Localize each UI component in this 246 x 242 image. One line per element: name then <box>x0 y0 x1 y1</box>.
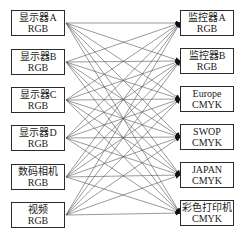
target-name: JAPAN <box>192 164 222 175</box>
source-space: RGB <box>28 138 49 149</box>
source-name: 显示器C <box>20 89 57 100</box>
source-name: 显示器A <box>19 12 56 23</box>
source-box-display-c: 显示器C RGB <box>11 87 65 113</box>
connection-arrow <box>66 213 180 215</box>
source-name: 显示器B <box>20 51 57 62</box>
target-name: 彩色打印机 <box>182 202 232 213</box>
target-name: 监控器B <box>189 50 226 61</box>
target-space: CMYK <box>192 137 222 148</box>
target-box-europe: Europe CMYK <box>180 86 234 112</box>
target-space: RGB <box>197 23 218 34</box>
target-space: CMYK <box>192 213 222 224</box>
source-name: 显示器D <box>19 127 56 138</box>
source-space: RGB <box>28 215 49 226</box>
connection-arrow <box>66 175 180 215</box>
target-box-swop: SWOP CMYK <box>180 124 234 150</box>
source-space: RGB <box>28 177 49 188</box>
target-name: 监控器A <box>188 12 225 23</box>
connection-arrow <box>66 138 180 175</box>
source-space: RGB <box>28 62 49 73</box>
target-box-monitor-b: 监控器B RGB <box>180 48 234 74</box>
source-box-display-d: 显示器D RGB <box>11 125 65 151</box>
source-box-video: 视频 RGB <box>11 202 65 228</box>
target-space: RGB <box>197 61 218 72</box>
target-name: SWOP <box>193 126 221 137</box>
source-box-display-a: 显示器A RGB <box>11 10 65 36</box>
source-name: 视频 <box>28 204 48 215</box>
target-space: CMYK <box>192 99 222 110</box>
source-box-digital-camera: 数码相机 RGB <box>11 164 65 190</box>
connection-arrow <box>66 99 180 215</box>
target-box-color-printer: 彩色打印机 CMYK <box>180 200 234 226</box>
target-name: Europe <box>193 88 222 99</box>
target-space: CMYK <box>192 175 222 186</box>
color-conversion-diagram: 显示器A RGB 显示器B RGB 显示器C RGB 显示器D RGB 数码相机… <box>0 0 246 242</box>
target-box-monitor-a: 监控器A RGB <box>180 10 234 36</box>
source-space: RGB <box>28 23 49 34</box>
connection-arrow <box>66 137 180 215</box>
source-name: 数码相机 <box>18 166 58 177</box>
target-box-japan: JAPAN CMYK <box>180 162 234 188</box>
source-space: RGB <box>28 100 49 111</box>
source-box-display-b: 显示器B RGB <box>11 49 65 75</box>
